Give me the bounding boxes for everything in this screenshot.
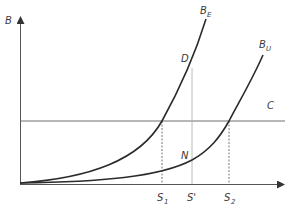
label-be: B E <box>200 5 212 19</box>
svg-text:2: 2 <box>231 198 236 206</box>
svg-text:S: S <box>224 192 231 203</box>
svg-text:B: B <box>200 5 207 16</box>
svg-text:E: E <box>207 11 212 19</box>
svg-text:S: S <box>157 192 164 203</box>
svg-text:S': S' <box>187 192 196 203</box>
label-s1: S 1 <box>157 192 168 206</box>
label-s2: S 2 <box>224 192 236 206</box>
svg-text:B: B <box>259 39 266 50</box>
label-d: D <box>181 53 189 64</box>
label-s-prime: S' <box>187 192 196 203</box>
svg-text:U: U <box>266 45 271 53</box>
svg-text:1: 1 <box>164 198 168 206</box>
label-n: N <box>181 150 189 161</box>
curve-be <box>20 19 206 183</box>
label-bu: B U <box>259 39 271 53</box>
y-axis-label: B <box>5 15 12 26</box>
diagram-canvas: B B E B U D C N S 1 S' S 2 <box>0 0 292 210</box>
curve-bu <box>20 55 263 183</box>
label-c: C <box>267 100 274 111</box>
